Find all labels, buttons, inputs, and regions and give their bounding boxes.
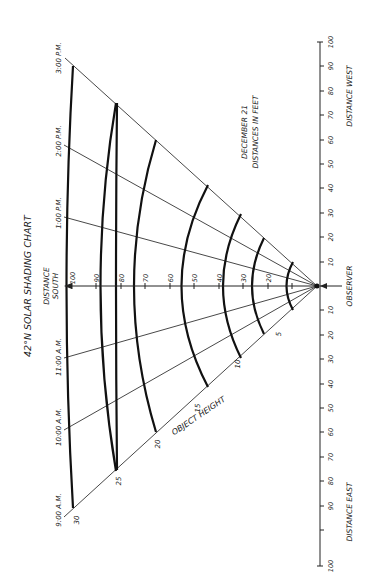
solar-shading-chart: 42°N SOLAR SHADING CHART DISTANCE SOUTH … xyxy=(0,0,369,573)
hour-label-1pm: 1:00 P.M. xyxy=(55,197,63,229)
east-axis-label: DISTANCE EAST xyxy=(345,481,354,541)
svg-text:60: 60 xyxy=(167,274,175,282)
height-label-20: 20 xyxy=(154,439,162,448)
ew-tick-labels: 10 20 30 40 50 60 70 80 90 100 10 20 30 … xyxy=(327,36,335,572)
svg-text:90: 90 xyxy=(327,502,335,510)
hour-label-9am: 9:00 A.M. xyxy=(55,493,63,526)
height-curve-25 xyxy=(101,103,117,471)
height-label-30: 30 xyxy=(73,515,81,524)
south-axis xyxy=(64,283,317,289)
height-label-10: 10 xyxy=(234,359,242,368)
svg-text:80: 80 xyxy=(118,274,126,282)
chart-title: 42°N SOLAR SHADING CHART xyxy=(22,214,33,357)
observer-point xyxy=(315,284,320,289)
svg-text:50: 50 xyxy=(327,160,335,168)
svg-text:80: 80 xyxy=(327,477,335,485)
ew-ticks xyxy=(320,66,324,530)
svg-text:20: 20 xyxy=(327,233,335,241)
hour-label-2pm: 2:00 P.M. xyxy=(55,125,63,157)
south-label-1: DISTANCE xyxy=(42,267,51,305)
svg-text:100: 100 xyxy=(69,272,77,284)
svg-text:10: 10 xyxy=(327,306,335,314)
height-label-5: 5 xyxy=(275,331,283,336)
south-label-2: SOUTH xyxy=(51,272,60,299)
units-label: DISTANCES IN FEET xyxy=(251,94,260,168)
svg-text:30: 30 xyxy=(327,209,335,217)
svg-text:30: 30 xyxy=(240,274,248,282)
hour-label-11am: 11:00 A.M. xyxy=(55,338,63,376)
svg-text:40: 40 xyxy=(327,184,335,192)
svg-text:20: 20 xyxy=(327,331,335,339)
height-label-25: 25 xyxy=(115,476,123,485)
date-label: DECEMBER 21 xyxy=(240,105,249,159)
east-west-axis xyxy=(315,42,343,566)
svg-text:50: 50 xyxy=(191,274,199,282)
svg-text:100: 100 xyxy=(327,36,335,48)
hour-label-3pm: 3:00 P.M. xyxy=(55,42,63,74)
svg-text:50: 50 xyxy=(327,404,335,412)
svg-text:70: 70 xyxy=(327,453,335,461)
svg-text:100: 100 xyxy=(327,560,335,572)
svg-text:10: 10 xyxy=(327,258,335,266)
svg-text:60: 60 xyxy=(327,136,335,144)
observer-label: OBSERVER xyxy=(345,266,354,307)
svg-text:60: 60 xyxy=(327,428,335,436)
height-label-15: 15 xyxy=(194,403,202,412)
svg-text:70: 70 xyxy=(327,111,335,119)
object-height-label: OBJECT HEIGHT xyxy=(170,394,228,437)
svg-text:80: 80 xyxy=(327,87,335,95)
svg-text:90: 90 xyxy=(93,274,101,282)
west-axis-label: DISTANCE WEST xyxy=(345,64,354,127)
svg-text:70: 70 xyxy=(142,274,150,282)
hour-lines xyxy=(64,58,317,517)
svg-text:90: 90 xyxy=(327,62,335,70)
hour-label-10am: 10:00 A.M. xyxy=(55,408,63,446)
svg-text:40: 40 xyxy=(327,380,335,388)
svg-text:40: 40 xyxy=(216,274,224,282)
svg-text:20: 20 xyxy=(265,274,273,282)
observer-arrow-icon xyxy=(320,283,327,289)
svg-text:30: 30 xyxy=(327,355,335,363)
